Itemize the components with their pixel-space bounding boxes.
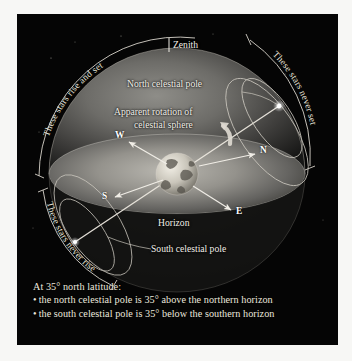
caption-item-0-text: the north celestial pole is 35° above th… xyxy=(39,294,273,305)
label-south-celestial-pole: South celestial pole xyxy=(151,243,226,254)
label-north-celestial-pole: North celestial pole xyxy=(127,78,202,89)
caption-bullet-0: • xyxy=(33,294,37,305)
label-apparent-rotation-line1: Apparent rotation of xyxy=(114,106,192,117)
caption-item-0: •the north celestial pole is 35° above t… xyxy=(33,293,329,306)
label-direction-south: S xyxy=(102,191,107,201)
label-horizon: Horizon xyxy=(158,217,189,228)
caption-item-1: •the south celestial pole is 35° below t… xyxy=(33,307,329,320)
caption-bullet-1: • xyxy=(33,308,37,319)
label-direction-north: N xyxy=(260,145,267,155)
figure-page: These stars rise and set These stars nev… xyxy=(0,0,352,361)
caption-block: At 35° north latitude: •the north celest… xyxy=(33,280,329,320)
caption-item-1-text: the south celestial pole is 35° below th… xyxy=(39,308,275,319)
caption-heading: At 35° north latitude: xyxy=(33,280,329,293)
label-direction-west: W xyxy=(115,130,124,140)
label-apparent-rotation-line2: celestial sphere xyxy=(134,119,193,130)
label-direction-east: E xyxy=(236,206,242,216)
label-zenith: Zenith xyxy=(173,39,198,50)
diagram-panel: These stars rise and set These stars nev… xyxy=(17,14,338,345)
